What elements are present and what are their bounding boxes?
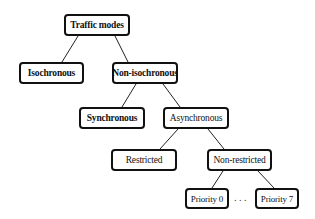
node-asynchronous: Asynchronous — [163, 107, 229, 129]
node-non-restricted: Non-restricted — [207, 149, 272, 171]
edge-root-non-isochronous — [115, 36, 128, 62]
edge-asynchronous-restricted — [160, 129, 178, 149]
tree-edges — [0, 0, 315, 219]
edge-nonrestricted-priority7 — [258, 171, 274, 188]
traffic-modes-diagram: Traffic modes Isochronous Non-isochronou… — [0, 0, 315, 219]
node-priority-0: Priority 0 — [185, 188, 229, 209]
edge-nonisochronous-asynchronous — [163, 84, 180, 107]
edge-root-isochronous — [62, 36, 78, 62]
ellipsis: . . . — [234, 192, 247, 203]
node-restricted: Restricted — [111, 149, 177, 171]
node-non-isochronous: Non-isochronous — [112, 62, 178, 84]
node-isochronous: Isochronous — [19, 62, 84, 84]
edge-asynchronous-nonrestricted — [208, 129, 224, 149]
edge-nonisochronous-synchronous — [122, 84, 136, 107]
node-traffic-modes: Traffic modes — [64, 14, 130, 36]
node-priority-7: Priority 7 — [255, 188, 299, 209]
edge-nonrestricted-priority0 — [212, 171, 223, 188]
node-synchronous: Synchronous — [79, 107, 145, 129]
